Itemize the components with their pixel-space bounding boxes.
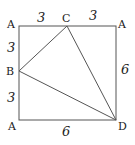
geometry-diagram: A C A B A D 3 3 3 3 6 6 <box>0 0 135 145</box>
label-c: C <box>62 12 70 25</box>
length-right: 6 <box>121 62 129 77</box>
length-left-lower: 3 <box>7 90 15 105</box>
label-a-bottom-left: A <box>7 120 17 133</box>
segment-cd <box>67 26 116 120</box>
segment-bd <box>19 71 116 120</box>
label-b: B <box>6 65 14 78</box>
square <box>19 26 116 120</box>
length-left-upper: 3 <box>7 40 15 55</box>
label-a-top-right: A <box>117 18 127 31</box>
length-top-right: 3 <box>89 8 97 23</box>
label-d: D <box>118 120 127 133</box>
length-bottom: 6 <box>62 124 70 139</box>
segment-cb <box>19 26 67 71</box>
length-top-left: 3 <box>37 10 45 25</box>
label-a-top-left: A <box>6 18 16 31</box>
